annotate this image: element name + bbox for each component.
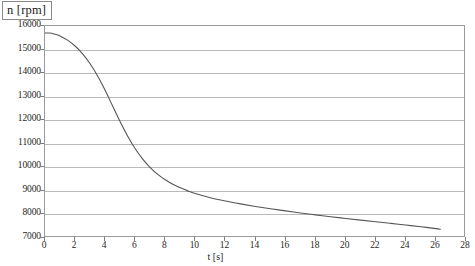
x-tick-mark bbox=[194, 237, 195, 241]
x-tick-label: 4 bbox=[90, 240, 118, 250]
x-tick-mark bbox=[435, 237, 436, 241]
x-tick-mark bbox=[315, 237, 316, 241]
x-tick-mark bbox=[285, 237, 286, 241]
x-tick-mark bbox=[74, 237, 75, 241]
x-tick-label: 6 bbox=[120, 240, 148, 250]
x-tick-mark bbox=[405, 237, 406, 241]
x-tick-mark bbox=[255, 237, 256, 241]
x-tick-label: 0 bbox=[30, 240, 58, 250]
x-tick-label: 16 bbox=[271, 240, 299, 250]
x-tick-label: 24 bbox=[391, 240, 419, 250]
x-tick-label: 8 bbox=[150, 240, 178, 250]
x-tick-label: 20 bbox=[331, 240, 359, 250]
x-tick-mark bbox=[104, 237, 105, 241]
x-tick-mark bbox=[44, 237, 45, 241]
x-tick-mark bbox=[465, 237, 466, 241]
x-tick-label: 12 bbox=[210, 240, 238, 250]
x-axis-title: t [s] bbox=[0, 251, 475, 262]
x-axis-ticks: 0246810121416182022242628 bbox=[0, 0, 475, 266]
x-tick-label: 14 bbox=[241, 240, 269, 250]
x-axis-title-text: t [s] bbox=[208, 251, 224, 262]
x-tick-label: 26 bbox=[421, 240, 449, 250]
x-tick-mark bbox=[375, 237, 376, 241]
x-tick-label: 22 bbox=[361, 240, 389, 250]
x-tick-label: 28 bbox=[451, 240, 475, 250]
speed-decay-chart: n [rpm] 70008000900010000110001200013000… bbox=[0, 0, 475, 266]
x-tick-mark bbox=[164, 237, 165, 241]
x-tick-mark bbox=[134, 237, 135, 241]
x-tick-label: 10 bbox=[180, 240, 208, 250]
x-tick-mark bbox=[345, 237, 346, 241]
x-tick-label: 2 bbox=[60, 240, 88, 250]
x-tick-label: 18 bbox=[301, 240, 329, 250]
x-tick-mark bbox=[224, 237, 225, 241]
